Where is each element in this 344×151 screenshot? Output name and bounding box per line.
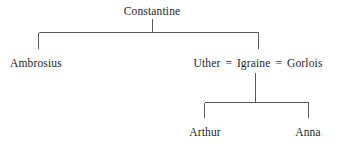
node-uther: Uther bbox=[193, 57, 220, 70]
family-tree-diagram: Constantine Ambrosius Uther = Igraine = … bbox=[0, 0, 344, 151]
node-igraine: Igraine bbox=[237, 57, 271, 70]
marriage-symbol-right: = bbox=[271, 57, 288, 70]
node-anna: Anna bbox=[295, 126, 321, 139]
node-ambrosius: Ambrosius bbox=[10, 57, 62, 70]
node-constantine: Constantine bbox=[124, 5, 181, 18]
connector-lines bbox=[0, 0, 344, 151]
node-arthur: Arthur bbox=[189, 126, 221, 139]
union-uther-igraine-gorlois: Uther = Igraine = Gorlois bbox=[193, 57, 322, 70]
node-gorlois: Gorlois bbox=[287, 57, 323, 70]
marriage-symbol-left: = bbox=[220, 57, 237, 70]
